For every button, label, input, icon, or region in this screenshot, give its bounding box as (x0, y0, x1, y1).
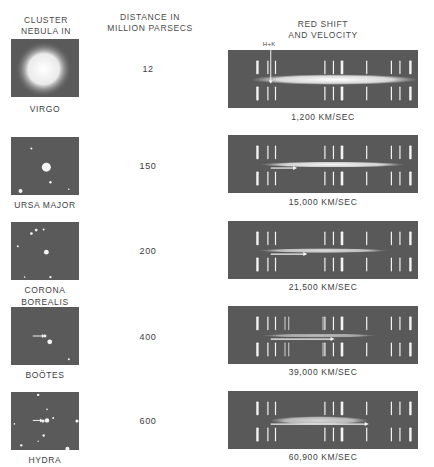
comparison-line (256, 172, 258, 186)
comparison-line (267, 316, 268, 330)
comparison-line (267, 145, 268, 159)
cluster-name-line: HYDRA (1, 454, 89, 466)
comparison-line (285, 343, 286, 357)
spectrum-plate (228, 306, 418, 364)
comparison-line (409, 343, 411, 357)
comparison-line (288, 343, 289, 357)
comparison-line (324, 231, 325, 245)
comparison-line (391, 401, 392, 415)
comparison-line (391, 60, 392, 74)
galaxy-photo-image (11, 222, 79, 280)
star (24, 276, 26, 278)
star (46, 409, 48, 411)
velocity-value: 1,200 KM/SEC (228, 112, 418, 122)
comparison-line (341, 401, 344, 415)
galaxy-photo (11, 222, 79, 280)
star (75, 419, 78, 422)
spectrum-plate (228, 221, 418, 279)
distance-value: 12 (118, 64, 178, 74)
comparison-line (275, 343, 276, 357)
comparison-line (324, 316, 325, 330)
comparison-line (409, 145, 411, 159)
galaxy-spectrum-streak (258, 248, 387, 253)
comparison-line (267, 87, 268, 101)
star (47, 339, 52, 344)
comparison-line (323, 343, 324, 357)
comparison-line (256, 428, 258, 442)
comparison-line (409, 316, 411, 330)
galaxy-photo (11, 137, 79, 195)
comparison-line (275, 172, 276, 186)
comparison-line (267, 258, 268, 272)
comparison-line (399, 172, 400, 186)
comparison-line (391, 316, 392, 330)
cluster-name: URSA MAJOR (1, 199, 89, 211)
header-line: CLUSTER (8, 15, 84, 26)
comparison-line (324, 87, 325, 101)
comparison-line (366, 316, 367, 330)
comparison-line (399, 401, 400, 415)
cluster-name-line: URSA MAJOR (1, 199, 89, 211)
comparison-line (366, 428, 367, 442)
header-line: AND VELOCITY (273, 30, 373, 41)
comparison-line (391, 145, 392, 159)
comparison-line (333, 316, 334, 330)
hk-label: H+K (263, 41, 276, 47)
cluster-name-line: BOÖTES (1, 369, 89, 381)
comparison-line (391, 343, 392, 357)
comparison-line (399, 231, 400, 245)
spectrum-image (228, 391, 418, 449)
comparison-line (256, 343, 258, 357)
comparison-line (333, 172, 334, 186)
comparison-line (366, 343, 367, 357)
spectrum-image (228, 221, 418, 279)
comparison-line (399, 316, 400, 330)
comparison-line (391, 87, 392, 101)
star (38, 441, 39, 442)
comparison-line (333, 428, 334, 442)
comparison-line (333, 87, 334, 101)
star (30, 232, 33, 235)
comparison-line (267, 60, 268, 74)
comparison-line (324, 258, 325, 272)
comparison-line (341, 145, 344, 159)
star (42, 163, 51, 172)
header-redshift: RED SHIFT AND VELOCITY (273, 19, 373, 41)
comparison-line (391, 172, 392, 186)
comparison-line (366, 231, 367, 245)
comparison-line (399, 87, 400, 101)
comparison-line (275, 145, 276, 159)
velocity-value: 15,000 KM/SEC (228, 197, 418, 207)
comparison-line (409, 60, 411, 74)
star (49, 181, 51, 183)
galaxy-photo (11, 39, 79, 97)
comparison-line (333, 401, 334, 415)
comparison-line (366, 60, 367, 74)
comparison-line (399, 60, 400, 74)
comparison-line (409, 258, 411, 272)
star (20, 444, 22, 446)
comparison-line (409, 231, 411, 245)
spectrum-plate (228, 135, 418, 193)
comparison-line (341, 87, 344, 101)
galaxy-photo (11, 392, 79, 450)
velocity-value: 21,500 KM/SEC (228, 282, 418, 292)
comparison-line (285, 316, 286, 330)
cluster-name: HYDRA (1, 454, 89, 466)
comparison-line (366, 401, 367, 415)
comparison-line (333, 60, 334, 74)
redshift-arrow-head-icon (365, 422, 369, 426)
comparison-line (267, 172, 268, 186)
star (68, 358, 70, 360)
cluster-name: CORONABOREALIS (1, 284, 89, 308)
star (45, 418, 49, 422)
comparison-line (256, 258, 258, 272)
comparison-line (366, 172, 367, 186)
spectrum-image (228, 135, 418, 193)
comparison-line (341, 172, 344, 186)
star (52, 417, 54, 419)
comparison-line (323, 316, 324, 330)
comparison-line (399, 428, 400, 442)
comparison-line (409, 172, 411, 186)
comparison-line (275, 401, 276, 415)
